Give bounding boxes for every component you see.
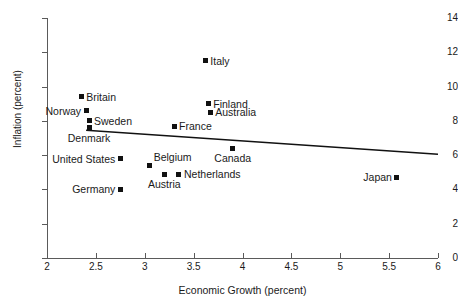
- data-point-label: Italy: [210, 55, 229, 66]
- data-point-marker: [208, 110, 213, 115]
- data-point-marker: [230, 146, 235, 151]
- data-point-marker: [84, 108, 89, 113]
- data-point-marker: [118, 187, 123, 192]
- data-point-marker: [162, 172, 167, 177]
- data-point-label: Canada: [214, 153, 251, 164]
- data-point-marker: [147, 163, 152, 168]
- data-point-label: France: [179, 121, 212, 132]
- data-point-label: Germany: [72, 184, 115, 195]
- data-point-marker: [206, 101, 211, 106]
- data-point-label: Belgium: [154, 152, 192, 163]
- data-point-marker: [87, 118, 92, 123]
- data-point-label: Japan: [363, 172, 392, 183]
- data-point-marker: [176, 172, 181, 177]
- data-point-label: Denmark: [68, 133, 111, 144]
- data-point-marker: [394, 175, 399, 180]
- data-point-marker: [79, 94, 84, 99]
- data-point-label: United States: [52, 153, 115, 164]
- data-point-marker: [203, 58, 208, 63]
- data-point-marker: [118, 156, 123, 161]
- data-point-label: Australia: [215, 107, 256, 118]
- data-point-label: Britain: [86, 91, 116, 102]
- data-point-label: Norway: [46, 105, 82, 116]
- scatter-plot: 02468101214 22.533.544.555.56 Inflation …: [0, 0, 458, 307]
- data-point-label: Sweden: [94, 115, 132, 126]
- data-point-marker: [172, 124, 177, 129]
- data-point-marker: [87, 125, 92, 130]
- data-point-label: Austria: [148, 179, 181, 190]
- data-point-label: Netherlands: [184, 169, 241, 180]
